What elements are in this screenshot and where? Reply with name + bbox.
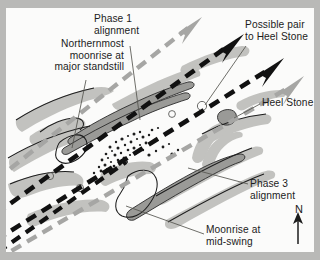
label-north: N bbox=[291, 204, 307, 216]
figure-container: Northernmost moonrise at major standstil… bbox=[0, 0, 320, 260]
label-northernmost-moonrise: Northernmost moonrise at major standstil… bbox=[12, 38, 124, 73]
label-phase-3-alignment: Phase 3 alignment bbox=[250, 178, 312, 201]
label-heel-stone: Heel Stone bbox=[262, 97, 314, 109]
label-moonrise-at-mid-swing: Moonrise at mid-swing bbox=[206, 224, 298, 247]
label-possible-pair-to-heel-stone: Possible pair to Heel Stone bbox=[245, 19, 314, 42]
label-phase-1-alignment: Phase 1 alignment bbox=[94, 13, 164, 36]
map-plate: Northernmost moonrise at major standstil… bbox=[6, 8, 314, 252]
